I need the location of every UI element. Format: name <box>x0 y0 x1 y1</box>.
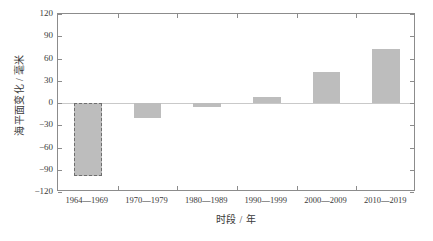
x-tick-label: 1970—1979 <box>125 194 168 206</box>
y-tick-mark-right <box>410 148 414 149</box>
y-tick-mark-right <box>410 170 414 171</box>
x-axis-tick-labels: 1964—19691970—19791980—19891990—19992000… <box>57 194 415 208</box>
y-tick-mark <box>58 125 62 126</box>
x-tick-mark-top <box>118 14 119 18</box>
y-tick-label: 30 <box>44 75 53 84</box>
y-tick-mark-right <box>410 36 414 37</box>
x-tick-mark <box>118 186 119 190</box>
x-tick-mark-top <box>237 14 238 18</box>
x-tick-mark <box>297 186 298 190</box>
x-tick-label: 2000—2009 <box>304 194 347 206</box>
y-axis-tick-labels: 1209060300−30−60−90−120 <box>26 13 53 191</box>
zero-baseline <box>58 103 414 104</box>
bar-2010-2019 <box>372 49 399 103</box>
x-tick-mark <box>177 186 178 190</box>
y-tick-mark <box>58 170 62 171</box>
y-tick-mark-right <box>410 192 414 193</box>
plot-surface <box>58 14 414 190</box>
y-axis-title: 海平面变化 / 毫米 <box>8 0 28 190</box>
y-tick-label: 0 <box>49 98 54 107</box>
bar-1990-1999 <box>253 97 280 103</box>
y-tick-mark-right <box>410 81 414 82</box>
x-axis-title: 时段 / 年 <box>57 211 415 226</box>
x-tick-mark-top <box>177 14 178 18</box>
x-tick-mark-top <box>356 14 357 18</box>
y-tick-mark-right <box>410 14 414 15</box>
y-tick-mark <box>58 81 62 82</box>
bar-1970-1979 <box>134 103 161 118</box>
y-tick-mark-right <box>410 103 414 104</box>
x-tick-label: 1990—1999 <box>245 194 288 206</box>
bar-1964-1969 <box>74 103 101 176</box>
bar-1980-1989 <box>193 103 220 107</box>
y-tick-label: 90 <box>44 31 53 40</box>
y-tick-mark <box>58 14 62 15</box>
x-tick-label: 2010—2019 <box>364 194 407 206</box>
x-tick-mark-top <box>297 14 298 18</box>
y-tick-mark-right <box>410 59 414 60</box>
y-tick-mark <box>58 36 62 37</box>
y-tick-label: −30 <box>39 120 53 129</box>
x-tick-mark <box>237 186 238 190</box>
y-tick-mark <box>58 59 62 60</box>
y-tick-label: −120 <box>34 187 53 196</box>
bar-2000-2009 <box>313 72 340 103</box>
x-tick-label: 1980—1989 <box>185 194 228 206</box>
y-tick-label: 60 <box>44 53 53 62</box>
y-tick-mark <box>58 192 62 193</box>
y-tick-mark-right <box>410 125 414 126</box>
y-tick-label: −60 <box>39 142 53 151</box>
x-tick-mark <box>356 186 357 190</box>
sea-level-change-bar-chart: 海平面变化 / 毫米 1209060300−30−60−90−120 1964—… <box>0 0 433 241</box>
x-tick-label: 1964—1969 <box>66 194 109 206</box>
y-tick-mark <box>58 103 62 104</box>
y-tick-label: 120 <box>40 9 54 18</box>
y-tick-mark <box>58 148 62 149</box>
plot-area <box>57 13 415 191</box>
y-tick-label: −90 <box>39 164 53 173</box>
